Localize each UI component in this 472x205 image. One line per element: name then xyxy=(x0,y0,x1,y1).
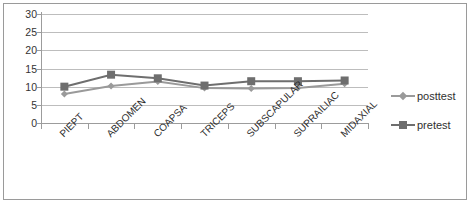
y-axis-tick xyxy=(37,87,42,88)
y-axis-tick xyxy=(37,14,42,15)
y-axis-tick xyxy=(37,105,42,106)
y-axis-tick xyxy=(37,69,42,70)
x-axis-tick xyxy=(134,124,135,129)
legend-label: posttest xyxy=(417,91,456,102)
data-point-pretest-TRICEPS xyxy=(201,82,209,90)
x-axis-tick xyxy=(321,124,322,129)
chart-legend: posttestpretest xyxy=(391,86,467,144)
data-point-posttest-ABDOMEN xyxy=(108,82,115,89)
legend-square-marker-icon xyxy=(399,121,407,129)
x-axis-tick xyxy=(368,124,369,129)
data-point-pretest-ABDOMEN xyxy=(107,71,115,79)
legend-key-posttest xyxy=(391,90,415,102)
data-point-pretest-PIEPT xyxy=(60,83,68,91)
data-point-pretest-SUBSCAPULAR xyxy=(247,77,255,85)
legend-key-pretest xyxy=(391,119,415,131)
x-axis-tick xyxy=(228,124,229,129)
data-point-pretest-MIDAXIAL xyxy=(341,76,349,84)
data-point-posttest-SUBSCAPULAR xyxy=(248,85,255,92)
legend-item-posttest[interactable]: posttest xyxy=(391,86,467,106)
legend-label: pretest xyxy=(417,120,451,131)
y-axis-tick xyxy=(37,50,42,51)
x-axis-tick xyxy=(181,124,182,129)
legend-diamond-marker-icon xyxy=(399,92,407,100)
y-axis-tick xyxy=(37,32,42,33)
x-axis-tick xyxy=(88,124,89,129)
x-axis-tick xyxy=(41,124,42,129)
chart-figure: 051015202530 PIEPTABDOMENCOAPSATRICEPSSU… xyxy=(0,0,472,205)
legend-item-pretest[interactable]: pretest xyxy=(391,115,467,135)
data-point-pretest-COAPSA xyxy=(154,74,162,82)
data-point-posttest-PIEPT xyxy=(61,90,68,97)
x-axis-tick xyxy=(275,124,276,129)
